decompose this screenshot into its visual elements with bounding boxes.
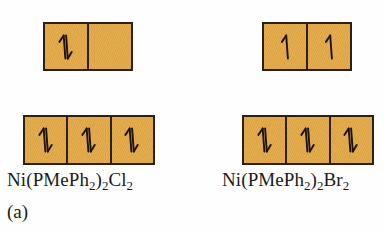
figure-caption: (a)	[7, 202, 28, 221]
right-complex-label: Ni(PMePh2)2Br2	[222, 170, 349, 193]
left-upper-orbital-row	[43, 22, 133, 71]
orbital-box	[287, 117, 330, 163]
up-down-spin-pair-icon	[38, 127, 53, 154]
left-complex-label: Ni(PMePh2)2Cl2	[7, 170, 133, 193]
up-down-spin-pair-icon	[344, 127, 359, 154]
formula-segment: Ni(PMePh	[7, 169, 89, 190]
right-upper-orbital-row	[262, 22, 352, 71]
orbital-box	[244, 117, 287, 163]
orbital-box	[331, 117, 372, 163]
formula-subscript: 2	[127, 178, 133, 193]
orbital-diagram-figure: Ni(PMePh2)2Cl2 Ni(PMePh2)2Br2 (a)	[0, 0, 384, 231]
orbital-box	[112, 117, 153, 163]
right-lower-orbital-row	[242, 115, 374, 165]
up-down-spin-pair-icon	[125, 127, 140, 154]
orbital-box	[308, 24, 350, 69]
up-down-spin-pair-icon	[81, 127, 96, 154]
up-spin-arrow-icon	[281, 33, 289, 60]
formula-segment: Br	[323, 169, 342, 190]
orbital-box	[25, 117, 68, 163]
up-down-spin-pair-icon	[300, 127, 315, 154]
formula-segment: Cl	[108, 169, 126, 190]
formula-segment: Ni(PMePh	[222, 169, 304, 190]
orbital-box	[264, 24, 308, 69]
orbital-box	[68, 117, 111, 163]
formula-subscript: 2	[343, 178, 349, 193]
up-down-spin-pair-icon	[257, 127, 272, 154]
orbital-box	[89, 24, 131, 69]
up-down-spin-pair-icon	[59, 33, 74, 60]
up-spin-arrow-icon	[325, 33, 333, 60]
left-lower-orbital-row	[23, 115, 155, 165]
orbital-box	[45, 24, 89, 69]
